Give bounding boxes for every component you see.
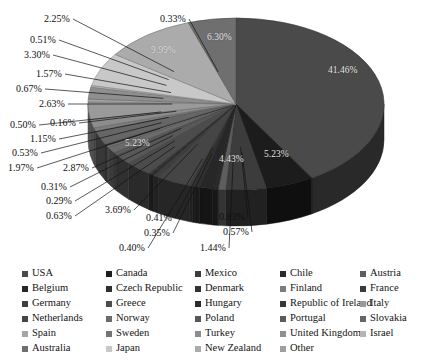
- legend-label: Belgium: [32, 283, 68, 294]
- legend-item-japan[interactable]: Japan: [106, 341, 140, 356]
- pie-callout-label: 0.33%: [160, 14, 186, 24]
- legend-item-other[interactable]: Other: [280, 341, 314, 356]
- legend-label: Canada: [116, 268, 148, 279]
- pie-slice-side-austria: [213, 189, 218, 225]
- pie-callout-label: 1.57%: [36, 69, 62, 79]
- legend-item-turkey[interactable]: Turkey: [195, 326, 235, 341]
- legend-swatch-icon: [360, 271, 366, 277]
- pie-value-label: 9.99%: [151, 46, 176, 56]
- pie-slice-side-greece: [151, 174, 153, 211]
- legend-swatch-icon: [22, 316, 28, 322]
- pie-callout-label: 0.35%: [144, 228, 170, 238]
- legend-swatch-icon: [360, 286, 366, 292]
- legend-item-finland[interactable]: Finland: [280, 281, 322, 296]
- legend-label: Greece: [116, 298, 146, 309]
- legend-swatch-icon: [106, 346, 112, 352]
- legend-item-norway[interactable]: Norway: [106, 311, 150, 326]
- pie-value-label: 4.43%: [219, 155, 244, 165]
- pie-callout-label: 2.87%: [63, 163, 89, 173]
- legend-swatch-icon: [360, 301, 366, 307]
- pie-slice-side-norway: [108, 147, 114, 188]
- legend-item-france[interactable]: France: [360, 281, 399, 296]
- legend-label: Japan: [116, 343, 140, 354]
- legend-label: Italy: [370, 298, 389, 309]
- legend-item-hungary[interactable]: Hungary: [195, 296, 242, 311]
- pie-callout-label: 2.25%: [44, 14, 70, 24]
- legend-label: Finland: [290, 283, 322, 294]
- pie-slice-side-spain: [94, 128, 96, 167]
- pie-callout-label: 2.63%: [39, 99, 65, 109]
- legend-label: Sweden: [116, 328, 149, 339]
- pie-slice-side-germany: [153, 175, 158, 213]
- pie-callout-label: 0.57%: [223, 227, 249, 237]
- pie-callout-label: 0.29%: [46, 196, 72, 206]
- legend-item-republic-of-ireland[interactable]: Republic of Ireland: [280, 296, 372, 311]
- pie-callout-label: 3.30%: [24, 50, 50, 60]
- pie-callout-label: 0.67%: [16, 84, 42, 94]
- pie-callout-label: 1.15%: [30, 134, 56, 144]
- legend-swatch-icon: [280, 316, 286, 322]
- legend-swatch-icon: [195, 346, 201, 352]
- legend-swatch-icon: [22, 331, 28, 337]
- legend-item-portugal[interactable]: Portugal: [280, 311, 326, 326]
- pie-callout-label: 3.69%: [105, 205, 131, 215]
- legend-item-chile[interactable]: Chile: [280, 266, 313, 281]
- legend-label: Mexico: [205, 268, 237, 279]
- legend-swatch-icon: [195, 316, 201, 322]
- pie-callout-label: 0.83%: [219, 212, 245, 222]
- legend-swatch-icon: [360, 331, 366, 337]
- legend-item-australia[interactable]: Australia: [22, 341, 71, 356]
- pie-callout-label: 0.53%: [12, 148, 38, 158]
- legend-label: Israel: [370, 328, 393, 339]
- legend-label: Poland: [205, 313, 234, 324]
- pie-callout-label: 0.41%: [146, 213, 172, 223]
- legend-item-poland[interactable]: Poland: [195, 311, 234, 326]
- legend-item-new-zealand[interactable]: New Zealand: [195, 341, 261, 356]
- pie-slice-side-poland: [106, 145, 108, 183]
- legend-item-canada[interactable]: Canada: [106, 266, 148, 281]
- legend-item-sweden[interactable]: Sweden: [106, 326, 149, 341]
- legend-item-usa[interactable]: USA: [22, 266, 53, 281]
- legend-item-italy[interactable]: Italy: [360, 296, 389, 311]
- legend-label: Other: [290, 343, 314, 354]
- legend-item-denmark[interactable]: Denmark: [195, 281, 244, 296]
- pie-callout-label: 0.40%: [119, 243, 145, 253]
- legend-swatch-icon: [106, 271, 112, 277]
- legend-label: Denmark: [205, 283, 244, 294]
- pie-slice-side-hungary: [149, 173, 151, 210]
- legend-item-slovakia[interactable]: Slovakia: [360, 311, 407, 326]
- legend-swatch-icon: [22, 301, 28, 307]
- legend-swatch-icon: [195, 286, 201, 292]
- legend-label: Hungary: [205, 298, 242, 309]
- legend-item-austria[interactable]: Austria: [360, 266, 401, 281]
- legend-label: Portugal: [290, 313, 326, 324]
- legend-item-israel[interactable]: Israel: [360, 326, 393, 341]
- legend-label: Germany: [32, 298, 71, 309]
- legend-item-belgium[interactable]: Belgium: [22, 281, 68, 296]
- legend-item-germany[interactable]: Germany: [22, 296, 71, 311]
- legend-item-spain[interactable]: Spain: [22, 326, 56, 341]
- legend-swatch-icon: [195, 301, 201, 307]
- legend-swatch-icon: [280, 331, 286, 337]
- legend-swatch-icon: [106, 286, 112, 292]
- legend-item-greece[interactable]: Greece: [106, 296, 146, 311]
- legend-swatch-icon: [106, 301, 112, 307]
- pie-slice-side-belgium: [200, 187, 213, 225]
- legend-label: Chile: [290, 268, 313, 279]
- legend-item-czech-republic[interactable]: Czech Republic: [106, 281, 183, 296]
- legend-label: New Zealand: [205, 343, 261, 354]
- pie-value-label: 41.46%: [328, 66, 357, 76]
- legend-label: France: [370, 283, 399, 294]
- legend-item-netherlands[interactable]: Netherlands: [22, 311, 83, 326]
- legend-item-united-kingdom[interactable]: United Kingdom: [280, 326, 361, 341]
- pie-callout-label: 1.97%: [8, 163, 34, 173]
- legend-label: United Kingdom: [290, 328, 361, 339]
- legend-swatch-icon: [280, 286, 286, 292]
- legend-swatch-icon: [360, 316, 366, 322]
- pie-value-label: 6.30%: [207, 33, 232, 43]
- legend-swatch-icon: [280, 346, 286, 352]
- pie-callout-label: 0.63%: [46, 211, 72, 221]
- legend-item-mexico[interactable]: Mexico: [195, 266, 237, 281]
- legend-label: Australia: [32, 343, 71, 354]
- pie-callout-label: 1.44%: [200, 243, 226, 253]
